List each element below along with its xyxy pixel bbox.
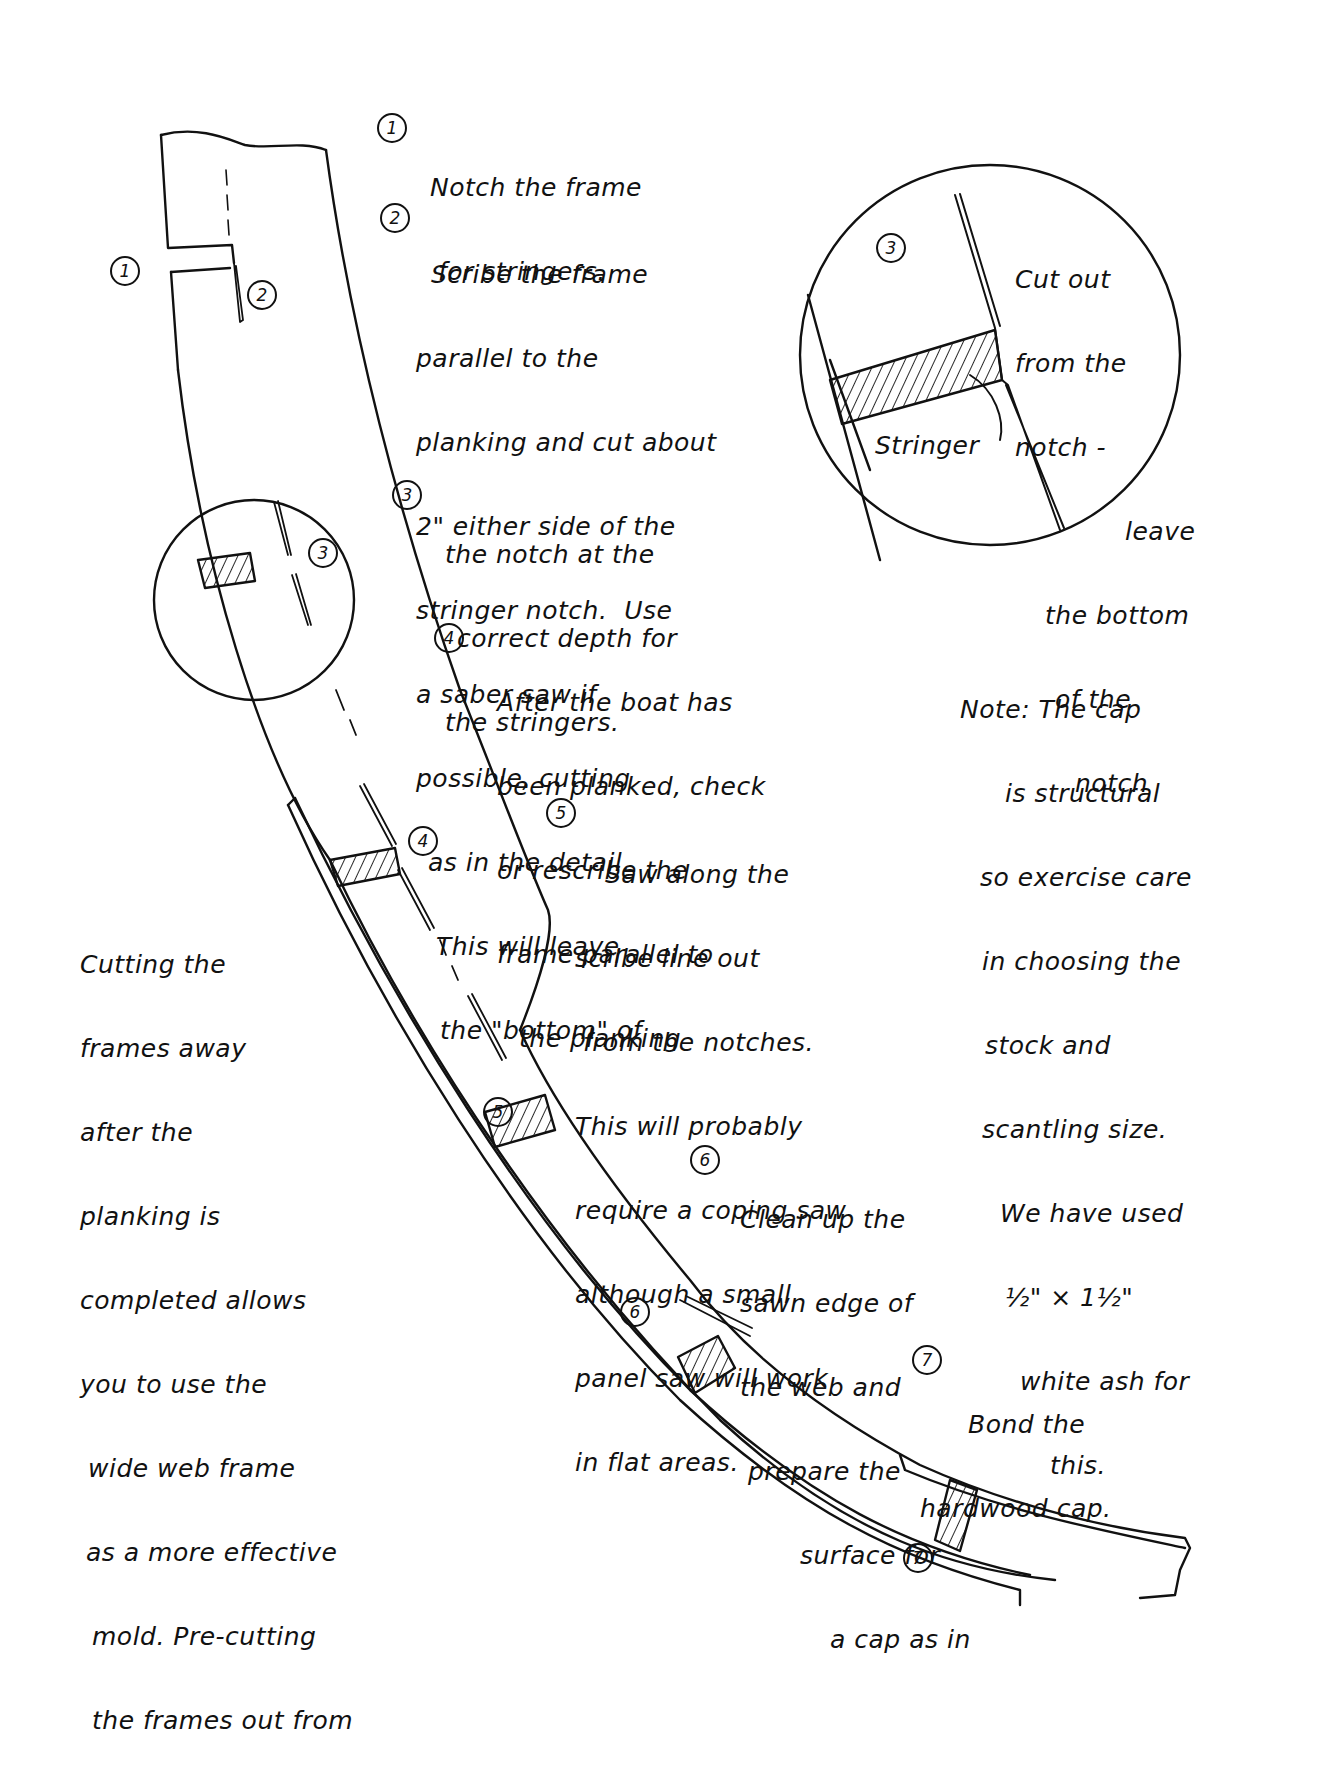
step-5-number: 5 (546, 798, 576, 828)
detail-callout-circle-small (154, 500, 354, 700)
step-2-number: 2 (380, 203, 410, 233)
frame-top-section (161, 132, 326, 370)
step-1-number: 1 (377, 113, 407, 143)
small-detail-notch (274, 501, 311, 625)
step-3-number: 3 (392, 480, 422, 510)
callout-5-drawing: 5 (483, 1097, 513, 1127)
note-text: Note: The cap is structural so exercise … (960, 640, 1192, 1508)
callout-1-drawing: 1 (110, 256, 140, 286)
step-4-number: 4 (434, 623, 464, 653)
callout-3-drawing: 3 (308, 538, 338, 568)
stringer-label: Stringer (875, 432, 979, 460)
side-note-text: Cutting the frames away after the planki… (80, 895, 392, 1782)
callout-2-drawing: 2 (247, 280, 277, 310)
callout-3-detail: 3 (876, 233, 906, 263)
step-6-number: 6 (690, 1145, 720, 1175)
